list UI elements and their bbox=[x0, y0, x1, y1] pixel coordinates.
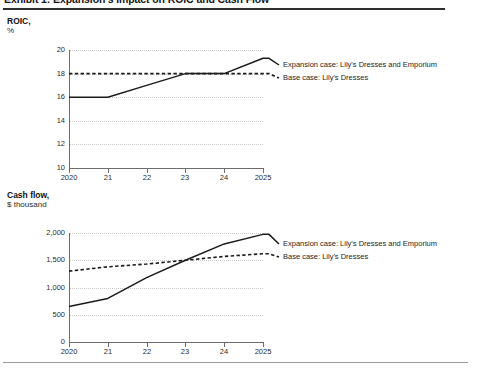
series-layer bbox=[0, 0, 480, 370]
legend-label: Base case: Lily's Dresses bbox=[283, 252, 368, 261]
expansion-case-line bbox=[69, 234, 279, 306]
cashflow-chart: 05001,0001,5002,0002020212223242025Expan… bbox=[0, 0, 480, 370]
legend-label: Expansion case: Lily's Dresses and Empor… bbox=[283, 239, 437, 248]
base-case-line bbox=[69, 254, 279, 271]
footer-rule bbox=[3, 362, 468, 363]
